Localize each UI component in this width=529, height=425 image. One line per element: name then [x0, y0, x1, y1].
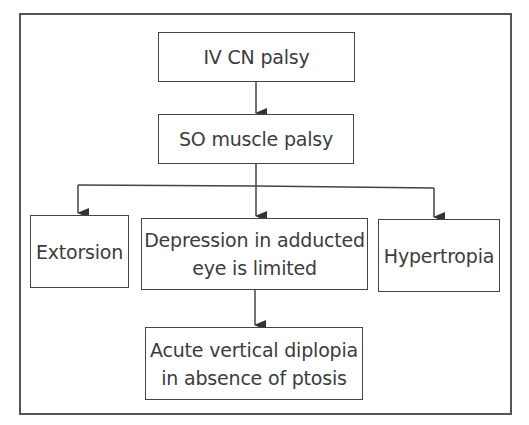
node-label: IV CN palsy — [203, 43, 309, 71]
node-hypertropia: Hypertropia — [378, 219, 500, 292]
node-acute-diplopia: Acute vertical diplopia in absence of pt… — [145, 327, 363, 400]
node-label: SO muscle palsy — [179, 125, 333, 153]
node-label-line1: Depression in adducted — [144, 226, 365, 254]
node-iv-cn-palsy: IV CN palsy — [158, 32, 355, 82]
node-label-line1: Acute vertical diplopia — [150, 336, 358, 364]
node-depression-limited: Depression in adducted eye is limited — [141, 218, 368, 290]
node-label-line2: in absence of ptosis — [161, 364, 346, 392]
node-label: Extorsion — [36, 238, 123, 266]
node-so-muscle-palsy: SO muscle palsy — [158, 114, 354, 164]
node-label: Hypertropia — [384, 242, 494, 270]
node-label-line2: eye is limited — [192, 254, 317, 282]
node-extorsion: Extorsion — [30, 215, 129, 288]
